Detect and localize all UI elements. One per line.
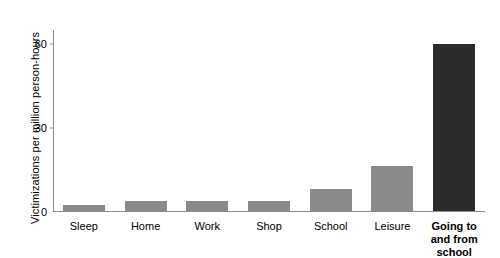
bar-work [186,201,228,211]
x-label-shop: Shop [238,220,300,258]
x-label-sleep: Sleep [53,220,115,258]
bar-home [125,201,167,211]
bar-slot [176,30,238,211]
x-label-school: School [300,220,362,258]
x-label-work: Work [176,220,238,258]
bar-slot [238,30,300,211]
x-label-going-to-and-from-school: Going to and from school [423,220,485,258]
bar-leisure [371,166,413,211]
bar-slot [362,30,424,211]
y-tick-label: 0 [41,206,53,218]
bar-chart: Victimizations per million person-hours … [0,0,500,258]
bar-going-to-and-from-school [433,44,475,211]
bar-school [310,189,352,211]
bar-sleep [63,205,105,211]
bar-shop [248,201,290,211]
x-axis-line [53,211,485,212]
bar-slot [423,30,485,211]
bars-layer [53,30,485,211]
plot-area: 03060 [53,30,485,212]
bar-slot [115,30,177,211]
bar-slot [53,30,115,211]
x-label-leisure: Leisure [362,220,424,258]
bar-slot [300,30,362,211]
x-label-home: Home [115,220,177,258]
x-axis-labels: SleepHomeWorkShopSchoolLeisureGoing to a… [53,220,485,258]
